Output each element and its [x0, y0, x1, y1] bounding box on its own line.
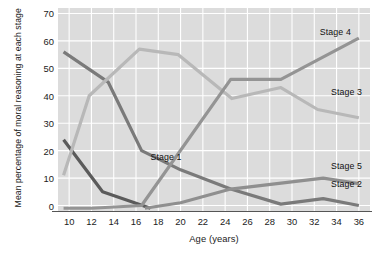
series-label-stage-5: Stage 5	[331, 161, 362, 171]
x-tick-30: 30	[287, 216, 297, 227]
x-tick-32: 32	[309, 216, 319, 227]
x-tick-22: 22	[198, 216, 208, 227]
moral-reasoning-line-chart: Mean percentage of moral reasoning at ea…	[0, 0, 386, 254]
x-tick-14: 14	[108, 216, 118, 227]
x-tick-34: 34	[331, 216, 341, 227]
series-label-stage-2: Stage 2	[331, 179, 362, 189]
x-axis-label: Age (years)	[58, 233, 370, 244]
x-tick-36: 36	[354, 216, 364, 227]
x-tick-28: 28	[264, 216, 274, 227]
series-label-stage-4: Stage 4	[320, 27, 351, 37]
plot-area	[0, 0, 386, 254]
x-tick-16: 16	[131, 216, 141, 227]
x-tick-18: 18	[153, 216, 163, 227]
x-tick-24: 24	[220, 216, 230, 227]
series-label-stage-3: Stage 3	[331, 87, 362, 97]
x-tick-10: 10	[64, 216, 74, 227]
x-tick-20: 20	[175, 216, 185, 227]
x-tick-26: 26	[242, 216, 252, 227]
x-tick-12: 12	[86, 216, 96, 227]
series-label-stage-1: Stage 1	[150, 152, 181, 162]
